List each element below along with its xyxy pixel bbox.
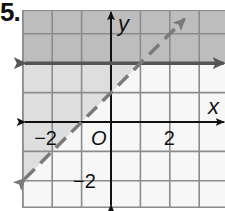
x-tick-label: −2 bbox=[34, 127, 57, 149]
coordinate-graph: yxO−22−2 bbox=[0, 0, 225, 211]
y-tick-label: −2 bbox=[73, 170, 96, 192]
x-axis-label: x bbox=[207, 94, 220, 119]
y-axis-label: y bbox=[116, 11, 131, 36]
plot-area bbox=[23, 10, 225, 207]
origin-label: O bbox=[91, 127, 107, 149]
x-tick-label: 2 bbox=[164, 127, 175, 149]
